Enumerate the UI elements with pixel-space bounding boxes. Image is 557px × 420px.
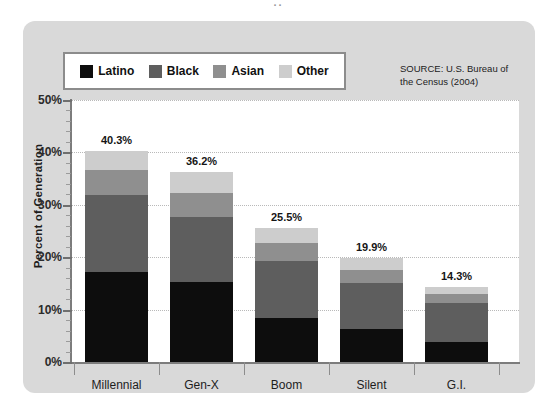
y-axis-minor-tick — [66, 215, 71, 216]
y-axis-tick-label: 30% — [18, 199, 62, 211]
y-axis-tick — [63, 205, 72, 207]
y-axis-minor-tick — [66, 142, 71, 143]
x-axis-label-gen-x: Gen-X — [159, 378, 244, 392]
source-line-1: SOURCE: U.S. Bureau of — [400, 62, 520, 75]
y-axis-tick — [63, 310, 72, 312]
y-axis-tick-label: 20% — [18, 251, 62, 263]
x-axis-line — [70, 362, 520, 364]
y-axis-minor-tick — [66, 163, 71, 164]
bar-boom[interactable] — [255, 228, 318, 362]
x-axis-label-boom: Boom — [244, 378, 329, 392]
legend-item-asian[interactable]: Asian — [213, 64, 264, 78]
x-axis-tick — [499, 362, 500, 375]
x-axis-label-millennial: Millennial — [74, 378, 159, 392]
x-axis-tick — [329, 362, 330, 375]
y-axis-line — [70, 99, 72, 364]
bar-segment-black — [255, 261, 318, 318]
bar-segment-black — [340, 283, 403, 329]
bar-segment-black — [170, 217, 233, 282]
legend-item-label: Asian — [231, 64, 264, 78]
cut-off-title-remnant: .. — [0, 0, 557, 14]
bar-segment-asian — [170, 193, 233, 217]
bar-silent[interactable] — [340, 258, 403, 362]
y-axis-tick — [63, 257, 72, 259]
y-axis-tick — [63, 152, 72, 154]
y-axis-minor-tick — [66, 278, 71, 279]
y-axis-tick-label: 40% — [18, 146, 62, 158]
bar-segment-other — [85, 151, 148, 170]
bar-segment-latino — [425, 342, 488, 362]
bar-segment-asian — [425, 294, 488, 303]
bar-segment-other — [340, 258, 403, 271]
y-axis-minor-tick — [66, 352, 71, 353]
y-axis-minor-tick — [66, 320, 71, 321]
y-axis-minor-tick — [66, 226, 71, 227]
x-axis-tick — [244, 362, 245, 375]
bar-gen-x[interactable] — [170, 172, 233, 362]
bar-g-i[interactable] — [425, 287, 488, 362]
y-axis-minor-tick — [66, 299, 71, 300]
bar-total-label: 14.3% — [425, 270, 488, 282]
y-axis-minor-tick — [66, 194, 71, 195]
y-axis-minor-tick — [66, 121, 71, 122]
bar-segment-asian — [340, 270, 403, 283]
y-axis-tick-label: 50% — [18, 94, 62, 106]
source-note: SOURCE: U.S. Bureau of the Census (2004) — [400, 62, 520, 88]
y-axis-minor-tick — [66, 341, 71, 342]
y-axis-tick-label: 10% — [18, 304, 62, 316]
x-axis-label-silent: Silent — [329, 378, 414, 392]
y-axis-minor-tick — [66, 110, 71, 111]
gridline — [71, 100, 519, 101]
bar-total-label: 36.2% — [170, 155, 233, 167]
bar-segment-latino — [85, 272, 148, 362]
bar-segment-latino — [340, 329, 403, 361]
y-axis-tick — [63, 100, 72, 102]
y-axis-minor-tick — [66, 173, 71, 174]
y-axis-minor-tick — [66, 236, 71, 237]
bar-segment-other — [170, 172, 233, 193]
y-axis-tick — [63, 362, 72, 364]
bar-segment-latino — [255, 318, 318, 362]
y-axis-minor-tick — [66, 331, 71, 332]
legend-swatch-icon — [213, 65, 226, 78]
legend-item-label: Latino — [98, 64, 134, 78]
legend-swatch-icon — [80, 65, 93, 78]
legend-item-black[interactable]: Black — [149, 64, 199, 78]
bar-total-label: 19.9% — [340, 241, 403, 253]
y-axis-minor-tick — [66, 247, 71, 248]
bar-segment-latino — [170, 282, 233, 362]
legend-item-other[interactable]: Other — [279, 64, 329, 78]
legend-swatch-icon — [149, 65, 162, 78]
x-axis-tick — [159, 362, 160, 375]
legend-item-label: Other — [297, 64, 329, 78]
y-axis-minor-tick — [66, 131, 71, 132]
bar-segment-asian — [255, 243, 318, 261]
bar-segment-black — [425, 303, 488, 342]
legend-swatch-icon — [279, 65, 292, 78]
chart-legend: LatinoBlackAsianOther — [63, 52, 346, 90]
y-axis-minor-tick — [66, 289, 71, 290]
y-axis-tick-labels: Percent of Generation 0%10%20%30%40%50% — [10, 0, 62, 420]
bar-segment-other — [425, 287, 488, 294]
y-axis-minor-tick — [66, 268, 71, 269]
bar-segment-other — [255, 228, 318, 243]
x-axis-tick — [74, 362, 75, 375]
bar-segment-asian — [85, 170, 148, 195]
bar-total-label: 40.3% — [85, 134, 148, 146]
legend-item-latino[interactable]: Latino — [80, 64, 134, 78]
source-line-2: the Census (2004) — [400, 75, 520, 88]
bar-millennial[interactable] — [85, 151, 148, 362]
y-axis-minor-tick — [66, 184, 71, 185]
bar-segment-black — [85, 195, 148, 272]
legend-item-label: Black — [167, 64, 199, 78]
x-axis-label-g-i: G.I. — [414, 378, 499, 392]
bar-total-label: 25.5% — [255, 211, 318, 223]
y-axis-tick-label: 0% — [18, 356, 62, 368]
x-axis-tick — [414, 362, 415, 375]
